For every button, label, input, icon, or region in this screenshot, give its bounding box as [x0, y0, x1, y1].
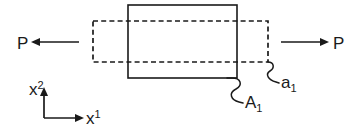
left-load-arrow [31, 38, 79, 46]
coordinate-axes [40, 87, 84, 122]
x2-superscript: 2 [38, 79, 44, 91]
right-load-arrow [281, 38, 329, 46]
right-arrow-head [320, 38, 329, 46]
x1-axis-label: x1 [86, 108, 101, 128]
right-load-label: P [333, 34, 344, 53]
a1-subscript: 1 [290, 82, 296, 94]
left-arrow-head [31, 38, 40, 46]
A1-leader-line [227, 78, 243, 103]
figure-canvas: P P a1 A1 x2 x1 [0, 0, 360, 135]
a1-leader-line [268, 62, 279, 83]
A1-label: A1 [245, 93, 262, 114]
x1-superscript: 1 [95, 108, 101, 120]
A1-subscript: 1 [256, 102, 262, 114]
A1-base: A [245, 93, 257, 112]
a1-label: a1 [281, 73, 297, 94]
x1-axis-arrowhead [75, 114, 84, 122]
left-load-label: P [17, 34, 28, 53]
reference-configuration-block [128, 5, 237, 78]
mechanics-figure: P P a1 A1 x2 x1 [0, 0, 360, 135]
deformed-configuration-block [93, 21, 268, 62]
